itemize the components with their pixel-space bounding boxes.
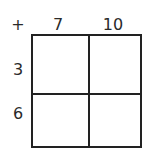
cell-r1-c1[interactable]	[33, 36, 88, 93]
cell-r1-c2[interactable]	[90, 36, 140, 93]
addition-grid	[31, 34, 142, 148]
cell-r2-c2[interactable]	[90, 95, 140, 146]
row-header-1: 3	[10, 62, 26, 78]
grid-divider-horizontal	[33, 93, 140, 95]
column-header-1: 7	[50, 17, 66, 33]
row-header-2: 6	[10, 106, 26, 122]
cell-r2-c1[interactable]	[33, 95, 88, 146]
operator-label: +	[10, 17, 26, 33]
grid-divider-vertical	[88, 36, 90, 146]
column-header-2: 10	[100, 17, 126, 33]
